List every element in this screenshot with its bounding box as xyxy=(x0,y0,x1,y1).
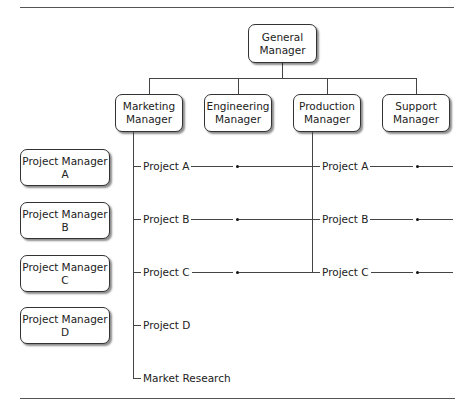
project-manager-c-box: Project Manager C xyxy=(20,255,110,292)
gm-connector xyxy=(282,63,283,78)
drop-marketing xyxy=(149,78,150,94)
manager-line2: Manager xyxy=(215,113,261,126)
dot-marker xyxy=(416,165,419,168)
engineering-manager-box: Engineering Manager xyxy=(204,94,272,132)
manager-line2: Manager xyxy=(304,113,350,126)
pm-line1: Project Manager xyxy=(22,208,107,221)
support-manager-box: Support Manager xyxy=(382,94,450,132)
marketing-spine xyxy=(133,132,134,378)
drop-engineering xyxy=(238,78,239,94)
bottom-rule xyxy=(20,398,455,399)
production-manager-box: Production Manager xyxy=(293,94,361,132)
marketing-project-d: Project D xyxy=(141,319,192,331)
marketing-manager-box: Marketing Manager xyxy=(115,94,183,132)
pm-line1: Project Manager xyxy=(22,155,107,168)
manager-line1: Production xyxy=(299,100,355,113)
row-project-d-tick xyxy=(133,325,141,326)
manager-line1: Marketing xyxy=(123,100,175,113)
dot-marker xyxy=(236,218,239,221)
manager-line1: Engineering xyxy=(207,100,270,113)
pm-line2: D xyxy=(61,326,69,339)
manager-line2: Manager xyxy=(126,113,172,126)
project-manager-a-box: Project Manager A xyxy=(20,149,110,186)
top-rule xyxy=(20,7,454,8)
gm-line1: General xyxy=(262,31,303,44)
marketing-project-c: Project C xyxy=(141,266,192,278)
manager-bus xyxy=(149,78,417,79)
pm-line2: A xyxy=(61,168,68,181)
marketing-market-research: Market Research xyxy=(141,372,233,384)
manager-line1: Support xyxy=(395,100,437,113)
drop-production xyxy=(327,78,328,94)
dot-marker xyxy=(236,165,239,168)
project-manager-d-box: Project Manager D xyxy=(20,307,110,344)
dot-marker xyxy=(236,271,239,274)
production-project-b: Project B xyxy=(320,213,370,225)
dot-marker xyxy=(416,218,419,221)
pm-line1: Project Manager xyxy=(22,261,107,274)
production-project-c: Project C xyxy=(320,266,371,278)
pm-line1: Project Manager xyxy=(22,313,107,326)
dot-marker xyxy=(416,271,419,274)
gm-line2: Manager xyxy=(259,44,305,57)
marketing-project-b: Project B xyxy=(141,213,191,225)
production-project-a: Project A xyxy=(320,160,370,172)
row-market-research-tick xyxy=(133,378,141,379)
project-manager-b-box: Project Manager B xyxy=(20,202,110,239)
general-manager-box: General Manager xyxy=(248,24,317,63)
production-spine xyxy=(312,132,313,272)
marketing-project-a: Project A xyxy=(141,160,191,172)
manager-line2: Manager xyxy=(393,113,439,126)
drop-support xyxy=(416,78,417,94)
pm-line2: C xyxy=(61,274,68,287)
pm-line2: B xyxy=(61,221,68,234)
